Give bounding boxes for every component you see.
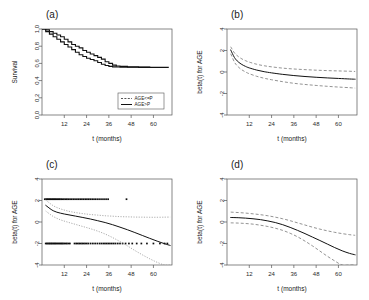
y-tick-label: 0.0 [34,110,40,119]
plot-frame [227,179,357,265]
panel-c: (c)-4-20241224364860t (months)beta(t) fo… [0,150,184,300]
x-tick-label: 48 [313,121,320,127]
scatter-point [84,243,86,245]
scatter-point [79,198,81,200]
y-tick-label: 0 [219,220,225,224]
scatter-point [92,243,94,245]
series-lower-ci [231,223,355,265]
y-tick-label: -2 [219,90,225,96]
x-tick-label: 60 [150,121,157,127]
scatter-point [153,243,155,245]
y-tick-label: 0.4 [34,76,40,85]
x-axis-title: t (months) [92,285,121,293]
y-tick-label: 0 [219,70,225,74]
scatter-point [89,198,91,200]
series-upper-ci [231,212,355,235]
scatter-point [83,243,85,245]
scatter-point [88,243,90,245]
x-tick-label: 60 [150,271,157,277]
scatter-point [74,198,76,200]
series-estimate [231,217,355,254]
scatter-point [97,198,99,200]
series-AGE<=P [42,29,168,67]
scatter-point [111,243,113,245]
scatter-point [94,243,96,245]
scatter-point [91,198,93,200]
x-tick-label: 12 [246,121,253,127]
scatter-point [69,243,71,245]
scatter-point [90,243,92,245]
y-tick-label: 2 [219,48,225,52]
scatter-point [69,198,71,200]
panel-a: (a)0.00.20.40.60.81.01224364860t (months… [0,0,184,150]
y-tick-label: 2 [219,198,225,202]
panel-c-plot: (c)-4-20241224364860t (months)beta(t) fo… [0,150,184,300]
data-layer [231,47,355,88]
scatter-point [75,243,77,245]
scatter-point [104,243,106,245]
scatter-point [136,243,138,245]
y-tick-label: -2 [34,240,40,246]
data-layer [231,212,355,265]
x-tick-label: 48 [313,271,320,277]
y-tick-label: -2 [219,240,225,246]
scatter-point [119,243,121,245]
legend-entry-label: AGE<=P [135,96,153,101]
scatter-point [73,198,75,200]
scatter-point [131,243,133,245]
panel-b-plot: (b)-4-20241224364860t (months)beta(t) fo… [185,0,369,150]
x-tick-label: 36 [106,121,113,127]
scatter-point [99,243,101,245]
scatter-point [80,243,82,245]
x-tick-label: 12 [61,121,68,127]
scatter-point [128,243,130,245]
scatter-point [93,198,95,200]
scatter-point [83,198,85,200]
legend-entry-label: AGE>P [135,102,150,107]
y-tick-label: -4 [219,262,225,268]
series-estimate [231,50,355,79]
scatter-point [107,198,109,200]
scatter-point [101,198,103,200]
x-tick-label: 60 [335,121,342,127]
x-tick-label: 24 [83,271,90,277]
scatter-point [77,243,79,245]
scatter-point [68,198,70,200]
x-tick-label: 24 [268,121,275,127]
panel-letter: (c) [46,159,58,170]
x-tick-label: 12 [61,271,68,277]
panel-letter: (b) [231,9,243,20]
panel-letter: (d) [231,159,243,170]
y-axis-title: beta(t) for AGE [11,200,19,244]
x-tick-label: 48 [128,121,135,127]
y-axis-title: Survival [11,60,18,84]
panel-letter: (a) [46,9,58,20]
y-tick-label: 4 [34,177,40,181]
scatter-point [126,198,128,200]
scatter-point [78,243,80,245]
scatter-point [71,198,73,200]
y-tick-label: 0.8 [34,41,40,50]
scatter-point [88,198,90,200]
x-tick-label: 24 [83,121,90,127]
scatter-point [62,198,64,200]
scatter-point [146,243,148,245]
scatter-point [63,198,65,200]
scatter-point [107,243,109,245]
panel-d: (d)-4-20241224364860t (months)beta(t) fo… [185,150,369,300]
y-axis-title: beta(t) for AGE [196,50,204,94]
data-layer [42,29,168,68]
scatter-point [74,243,76,245]
x-axis-title: t (months) [277,285,306,293]
scatter-point [66,243,68,245]
scatter-point [81,243,83,245]
scatter-point [103,198,105,200]
y-tick-label: 4 [219,177,225,181]
scatter-point [117,243,119,245]
scatter-point [99,198,101,200]
y-tick-label: 1.0 [34,24,40,33]
x-tick-label: 24 [268,271,275,277]
scatter-point [76,198,78,200]
x-tick-label: 12 [246,271,253,277]
scatter-point [95,198,97,200]
